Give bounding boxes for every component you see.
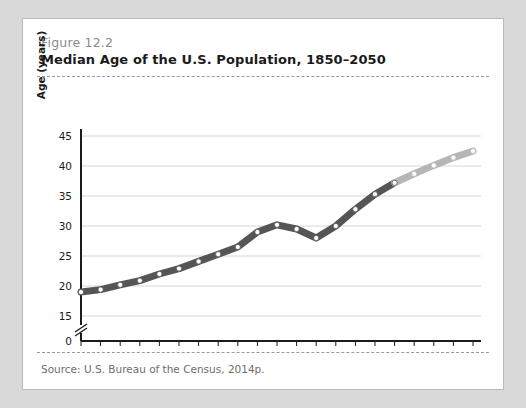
series-line-actual [81, 183, 395, 292]
divider-top [37, 76, 489, 77]
y-tick-label-45: 45 [59, 130, 72, 142]
data-point-1860 [98, 287, 103, 292]
y-tick-label-15: 15 [59, 310, 72, 322]
data-point-2010 [392, 180, 397, 185]
data-point-1940 [255, 229, 260, 234]
data-point-1970 [314, 235, 319, 240]
data-point-1900 [176, 266, 181, 271]
data-point-2050 [470, 148, 475, 153]
data-point-1920 [216, 252, 221, 257]
median-age-line-chart: 0152025303540451850187018901910193019501… [37, 89, 489, 347]
y-tick-label-35: 35 [59, 190, 72, 202]
data-point-1950 [274, 222, 279, 227]
page-background: Figure 12.2 Median Age of the U.S. Popul… [0, 0, 526, 408]
figure-title: Median Age of the U.S. Population, 1850–… [41, 52, 386, 67]
data-point-1870 [118, 282, 123, 287]
data-point-1930 [235, 244, 240, 249]
divider-bottom [37, 352, 489, 353]
data-point-2020 [412, 171, 417, 176]
figure-card: Figure 12.2 Median Age of the U.S. Popul… [22, 18, 504, 390]
data-point-2000 [372, 192, 377, 197]
data-point-2040 [451, 155, 456, 160]
data-point-1910 [196, 259, 201, 264]
y-tick-label-30: 30 [59, 220, 72, 232]
y-tick-label-0: 0 [65, 335, 72, 347]
y-tick-label-20: 20 [59, 280, 72, 292]
y-tick-label-25: 25 [59, 250, 72, 262]
figure-number-label: Figure 12.2 [41, 35, 113, 50]
data-point-2030 [431, 163, 436, 168]
y-axis-break-mark-1 [75, 324, 87, 332]
data-point-1890 [157, 271, 162, 276]
data-point-1880 [137, 278, 142, 283]
data-point-1850 [78, 289, 83, 294]
data-point-1960 [294, 226, 299, 231]
chart-plot-area: 0152025303540451850187018901910193019501… [37, 89, 489, 347]
source-note: Source: U.S. Bureau of the Census, 2014p… [41, 363, 265, 375]
y-tick-label-40: 40 [59, 160, 72, 172]
data-point-1990 [353, 207, 358, 212]
data-point-1980 [333, 223, 338, 228]
